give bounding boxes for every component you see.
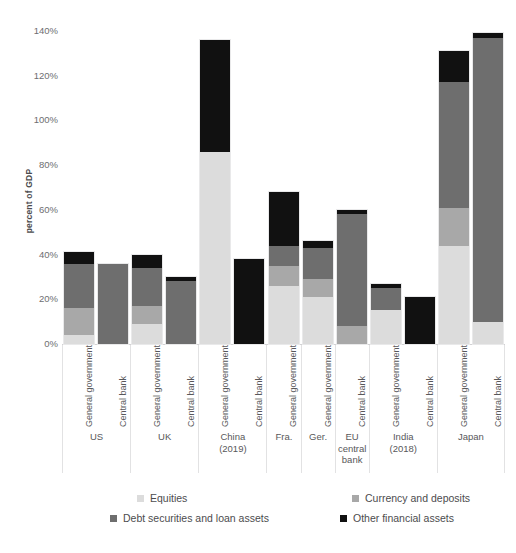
bar-label-central-bank: Central bank <box>254 376 264 427</box>
category-label: EUcentralbank <box>336 431 369 466</box>
category-label: Fra. <box>267 431 300 443</box>
stacked-bar-chart: percent of GDP 0%20%40%60%80%100%120%140… <box>0 0 516 553</box>
bar-segment-equities <box>132 324 162 344</box>
bar <box>439 51 469 344</box>
bar-segment-debt-securities-and-loan-assets <box>439 82 469 207</box>
bar-segment-debt-securities-and-loan-assets <box>473 38 503 322</box>
bar <box>405 297 435 344</box>
bar-segment-other-financial-assets <box>439 51 469 82</box>
bar <box>64 252 94 344</box>
legend-swatch-icon <box>137 495 144 502</box>
bar-segment-equities <box>439 246 469 344</box>
bar-segment-debt-securities-and-loan-assets <box>269 246 299 266</box>
bar-segment-debt-securities-and-loan-assets <box>303 248 333 279</box>
bar-segment-equities <box>200 152 230 344</box>
category-label: US <box>63 431 130 443</box>
category-label: Ger. <box>302 431 335 443</box>
bar <box>269 192 299 344</box>
bar <box>98 264 128 344</box>
bar-segment-equities <box>269 286 299 344</box>
bar-segment-equities <box>64 335 94 344</box>
category-group-eu-central-bank: Central bankEUcentralbank <box>335 345 369 473</box>
bar-segment-currency-and-deposits <box>64 308 94 335</box>
y-axis-tick-40: 40% <box>14 250 58 260</box>
bar-segment-other-financial-assets <box>200 40 230 152</box>
y-axis-tick-80: 80% <box>14 160 58 170</box>
bar-segment-currency-and-deposits <box>439 208 469 246</box>
bar <box>166 277 196 344</box>
category-label: India(2018) <box>370 431 437 454</box>
bar-segment-equities <box>303 297 333 344</box>
bar-segment-equities <box>473 322 503 344</box>
bar <box>132 255 162 344</box>
legend-label: Equities <box>150 492 187 504</box>
bar-segment-currency-and-deposits <box>269 266 299 286</box>
legend-label: Debt securities and loan assets <box>123 512 269 524</box>
legend-swatch-icon <box>110 515 117 522</box>
bar-label-general-government: General government <box>323 345 333 427</box>
category-group-us: General governmentCentral bankUS <box>62 345 130 473</box>
bar <box>303 241 333 344</box>
bar-label-central-bank: Central bank <box>186 376 196 427</box>
bar <box>337 210 367 344</box>
bar-segment-debt-securities-and-loan-assets <box>371 288 401 310</box>
bar <box>371 284 401 344</box>
category-group-ger: General governmentGer. <box>301 345 335 473</box>
bar-label-general-government: General government <box>152 345 162 427</box>
bar-label-general-government: General government <box>391 345 401 427</box>
bar-segment-other-financial-assets <box>132 255 162 268</box>
legend-swatch-icon <box>340 515 347 522</box>
category-group-japan: General governmentCentral bankJapan <box>437 345 505 473</box>
legend-label: Currency and deposits <box>365 492 470 504</box>
legend-item-currency-and-deposits[interactable]: Currency and deposits <box>352 492 470 504</box>
legend-item-other-financial-assets[interactable]: Other financial assets <box>340 512 454 524</box>
bar-segment-debt-securities-and-loan-assets <box>98 264 128 344</box>
bar-segment-other-financial-assets <box>234 259 264 344</box>
category-label: Japan <box>438 431 504 443</box>
y-axis-tick-140: 140% <box>14 26 58 36</box>
bar <box>473 33 503 344</box>
legend-item-equities[interactable]: Equities <box>137 492 187 504</box>
legend-swatch-icon <box>352 495 359 502</box>
bar-label-general-government: General government <box>459 345 469 427</box>
bar-segment-currency-and-deposits <box>303 279 333 297</box>
bar-segment-debt-securities-and-loan-assets <box>132 268 162 306</box>
category-group-uk: General governmentCentral bankUK <box>130 345 198 473</box>
bar-segment-equities <box>371 310 401 344</box>
bar-segment-currency-and-deposits <box>132 306 162 324</box>
category-group-india-2018: General governmentCentral bankIndia(2018… <box>369 345 437 473</box>
y-axis-tick-120: 120% <box>14 71 58 81</box>
legend-label: Other financial assets <box>353 512 454 524</box>
category-label: UK <box>131 431 198 443</box>
chart-legend: EquitiesCurrency and depositsDebt securi… <box>62 492 505 537</box>
y-axis-tick-0: 0% <box>14 339 58 349</box>
bar-segment-other-financial-assets <box>269 192 299 246</box>
bar-label-general-government: General government <box>220 345 230 427</box>
bar-label-central-bank: Central bank <box>425 376 435 427</box>
bar-segment-other-financial-assets <box>64 252 94 263</box>
bar <box>234 259 264 344</box>
plot-area <box>62 31 505 344</box>
bar-segment-currency-and-deposits <box>337 326 367 344</box>
bar-segment-other-financial-assets <box>405 297 435 344</box>
bar-label-general-government: General government <box>84 345 94 427</box>
bar-segment-debt-securities-and-loan-assets <box>64 264 94 309</box>
bar-label-central-bank: Central bank <box>493 376 503 427</box>
category-group-fra: General governmentFra. <box>266 345 300 473</box>
category-group-china-2019: General governmentCentral bankChina(2019… <box>198 345 266 473</box>
category-label: China(2019) <box>199 431 266 454</box>
y-axis-tick-20: 20% <box>14 294 58 304</box>
bar-segment-debt-securities-and-loan-assets <box>166 281 196 344</box>
category-axis: General governmentCentral bankUSGeneral … <box>62 345 505 473</box>
bar-label-central-bank: Central bank <box>118 376 128 427</box>
bar-label-general-government: General government <box>288 345 298 427</box>
bar-segment-debt-securities-and-loan-assets <box>337 214 367 326</box>
legend-item-debt-securities-and-loan-assets[interactable]: Debt securities and loan assets <box>110 512 269 524</box>
bar-label-central-bank: Central bank <box>357 376 367 427</box>
bar <box>200 40 230 344</box>
y-axis-tick-100: 100% <box>14 115 58 125</box>
bar-segment-other-financial-assets <box>303 241 333 248</box>
y-axis-tick-60: 60% <box>14 205 58 215</box>
